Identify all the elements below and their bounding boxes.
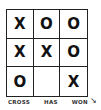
cell-2-0: O <box>7 67 34 96</box>
cell-0-0: X <box>7 10 34 39</box>
cell-1-2: O <box>60 39 87 68</box>
caption: CROSS HAS WON <box>8 99 88 105</box>
cell-2-2: X <box>60 67 87 96</box>
cell-0-1: O <box>34 10 61 39</box>
tic-tac-toe-board: X O O X X O O X <box>6 9 88 97</box>
caption-word: CROSS <box>8 99 30 105</box>
cell-1-0: X <box>7 39 34 68</box>
cell-1-1: X <box>34 39 61 68</box>
cell-0-2: O <box>60 10 87 39</box>
caption-word: WON <box>72 99 88 105</box>
artist-signature-icon: ↘ <box>90 96 97 105</box>
cell-2-1 <box>34 67 61 96</box>
caption-word: HAS <box>44 99 58 105</box>
